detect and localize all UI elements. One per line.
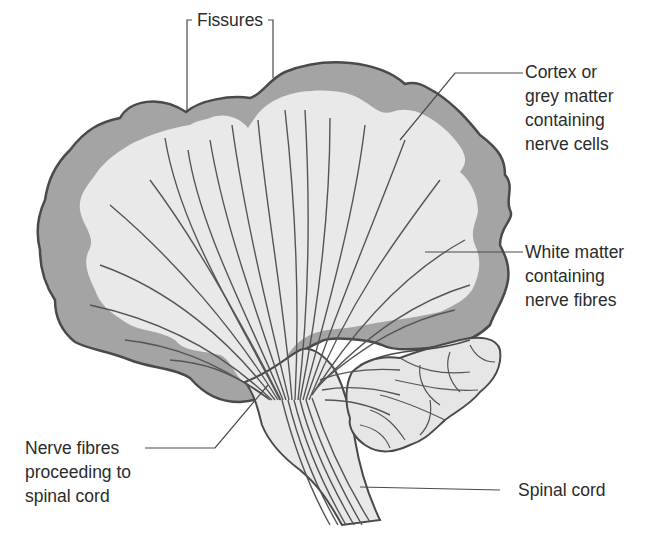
label-nerve-fibres-line-3: spinal cord (25, 484, 131, 508)
label-white-matter-line-1: White matter (525, 240, 624, 264)
label-white-matter-line-3: nerve fibres (525, 288, 624, 312)
label-white-matter: White matter containing nerve fibres (525, 240, 624, 312)
label-cortex: Cortex or grey matter containing nerve c… (525, 60, 614, 156)
spinal-cord-pointer (360, 487, 500, 490)
label-white-matter-line-2: containing (525, 264, 624, 288)
label-spinal-cord: Spinal cord (518, 478, 606, 502)
label-cortex-line-4: nerve cells (525, 132, 614, 156)
brain-diagram: Fissures Cortex or grey matter containin… (0, 0, 663, 551)
label-fissures: Fissures (197, 8, 263, 32)
label-nerve-fibres-line-2: proceeding to (25, 460, 131, 484)
label-cortex-line-3: containing (525, 108, 614, 132)
label-cortex-line-2: grey matter (525, 84, 614, 108)
label-nerve-fibres: Nerve fibres proceeding to spinal cord (25, 436, 131, 508)
label-cortex-line-1: Cortex or (525, 60, 614, 84)
label-nerve-fibres-line-1: Nerve fibres (25, 436, 131, 460)
